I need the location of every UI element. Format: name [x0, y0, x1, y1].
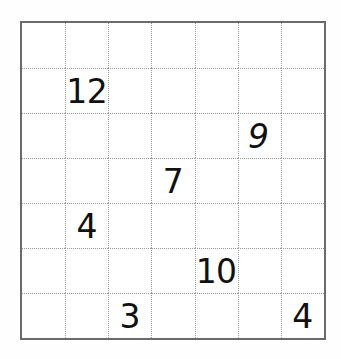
grid-cell-r7-c6[interactable] — [238, 293, 281, 338]
grid-cell-r3-c1[interactable] — [22, 113, 65, 158]
grid-cell-r4-c4[interactable]: 7 — [151, 158, 194, 203]
grid-cell-r3-c2[interactable] — [65, 113, 108, 158]
grid-cell-r3-c7[interactable] — [281, 113, 324, 158]
grid-cell-r4-c2[interactable] — [65, 158, 108, 203]
grid-cell-r1-c3[interactable] — [108, 23, 151, 68]
grid-cell-r3-c5[interactable] — [195, 113, 238, 158]
grid-cell-r5-c6[interactable] — [238, 203, 281, 248]
grid-cell-r6-c3[interactable] — [108, 248, 151, 293]
grid-cell-value: 7 — [163, 165, 184, 198]
grid-cell-r1-c2[interactable] — [65, 23, 108, 68]
puzzle-grid: 129741034 — [22, 23, 324, 338]
grid-cell-r6-c1[interactable] — [22, 248, 65, 293]
grid-cell-r2-c7[interactable] — [281, 68, 324, 113]
grid-cell-r6-c2[interactable] — [65, 248, 108, 293]
grid-cell-value: 4 — [76, 210, 97, 243]
grid-cell-r6-c6[interactable] — [238, 248, 281, 293]
grid-cell-r5-c7[interactable] — [281, 203, 324, 248]
grid-cell-r3-c3[interactable] — [108, 113, 151, 158]
grid-cell-r5-c5[interactable] — [195, 203, 238, 248]
grid-cell-r2-c4[interactable] — [151, 68, 194, 113]
grid-cell-r6-c5[interactable]: 10 — [195, 248, 238, 293]
grid-cell-r1-c1[interactable] — [22, 23, 65, 68]
grid-cell-r5-c4[interactable] — [151, 203, 194, 248]
grid-cell-r4-c5[interactable] — [195, 158, 238, 203]
grid-cell-r4-c7[interactable] — [281, 158, 324, 203]
grid-cell-r7-c3[interactable]: 3 — [108, 293, 151, 338]
puzzle-grid-frame: 129741034 — [20, 21, 326, 340]
grid-cell-r7-c7[interactable]: 4 — [281, 293, 324, 338]
grid-cell-r3-c4[interactable] — [151, 113, 194, 158]
grid-cell-r6-c7[interactable] — [281, 248, 324, 293]
puzzle-root: 129741034 — [0, 0, 341, 359]
grid-cell-r4-c3[interactable] — [108, 158, 151, 203]
grid-cell-r1-c7[interactable] — [281, 23, 324, 68]
grid-cell-r1-c5[interactable] — [195, 23, 238, 68]
grid-cell-value: 9 — [248, 120, 269, 153]
grid-cell-r5-c1[interactable] — [22, 203, 65, 248]
grid-cell-value: 10 — [196, 255, 237, 288]
grid-cell-value: 12 — [66, 75, 107, 108]
grid-cell-r7-c1[interactable] — [22, 293, 65, 338]
grid-cell-r1-c6[interactable] — [238, 23, 281, 68]
grid-cell-value: 4 — [292, 300, 313, 333]
grid-cell-r2-c1[interactable] — [22, 68, 65, 113]
grid-cell-r7-c2[interactable] — [65, 293, 108, 338]
grid-cell-r2-c2[interactable]: 12 — [65, 68, 108, 113]
grid-cell-r5-c2[interactable]: 4 — [65, 203, 108, 248]
grid-cell-r2-c3[interactable] — [108, 68, 151, 113]
grid-cell-value: 3 — [120, 300, 141, 333]
grid-cell-r3-c6[interactable]: 9 — [238, 113, 281, 158]
grid-cell-r7-c4[interactable] — [151, 293, 194, 338]
grid-cell-r6-c4[interactable] — [151, 248, 194, 293]
grid-cell-r4-c1[interactable] — [22, 158, 65, 203]
grid-cell-r7-c5[interactable] — [195, 293, 238, 338]
grid-cell-r1-c4[interactable] — [151, 23, 194, 68]
grid-cell-r2-c5[interactable] — [195, 68, 238, 113]
grid-cell-r2-c6[interactable] — [238, 68, 281, 113]
grid-cell-r5-c3[interactable] — [108, 203, 151, 248]
grid-cell-r4-c6[interactable] — [238, 158, 281, 203]
